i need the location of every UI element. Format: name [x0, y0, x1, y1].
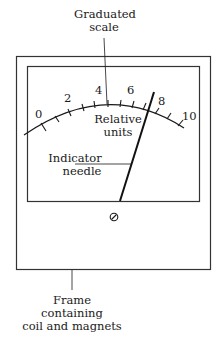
- label-line: scale: [74, 21, 134, 34]
- tick-label-2: 2: [64, 92, 71, 104]
- graduated-scale-label: Graduated scale: [74, 8, 134, 34]
- label-line: coil and magnets: [22, 320, 122, 333]
- indicator-needle-label: Indicator needle: [44, 152, 106, 178]
- label-line: needle: [44, 165, 106, 178]
- label-line: units: [88, 126, 148, 139]
- frame-label: Frame containing coil and magnets: [22, 294, 122, 333]
- relative-units-label: Relative units: [88, 113, 148, 139]
- tick-label-10: 10: [182, 110, 197, 122]
- analog-meter-diagram: Graduated scale 0 2 4 6 8 10 Relative un…: [0, 0, 222, 345]
- tick-label-8: 8: [158, 95, 165, 107]
- tick-label-0: 0: [35, 108, 42, 120]
- tick-label-4: 4: [95, 84, 102, 96]
- scale-leader-line: [104, 38, 107, 104]
- screw-slot-icon: [110, 213, 118, 221]
- indicator-needle: [120, 92, 154, 201]
- tick-label-6: 6: [127, 84, 134, 96]
